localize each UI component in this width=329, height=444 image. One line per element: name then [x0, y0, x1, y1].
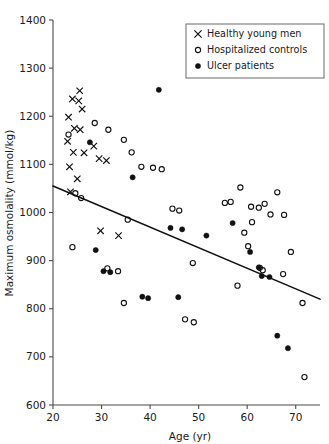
data-point — [150, 165, 155, 170]
data-point — [140, 294, 145, 299]
x-tick-label: 40 — [143, 411, 156, 423]
data-point — [256, 205, 261, 210]
data-point — [70, 245, 75, 250]
data-point — [81, 150, 87, 156]
x-tick-label: 50 — [192, 411, 205, 423]
data-point — [108, 270, 113, 275]
data-point — [79, 106, 85, 112]
osmolality-vs-age-chart: 60070080090010001100120013001400 2030405… — [0, 0, 329, 444]
data-point — [242, 230, 247, 235]
legend-marker-dot — [195, 63, 200, 68]
data-point — [222, 200, 227, 205]
data-point — [121, 137, 126, 142]
data-point — [93, 247, 98, 252]
data-point — [249, 220, 254, 225]
data-point — [230, 220, 235, 225]
data-point — [288, 249, 293, 254]
data-point — [87, 140, 92, 145]
y-tick-label: 800 — [26, 302, 46, 314]
data-point — [106, 127, 111, 132]
data-points-layer — [64, 87, 307, 380]
data-point — [235, 283, 240, 288]
series-healthy-young-men — [64, 88, 121, 239]
y-tick-label: 900 — [26, 254, 46, 266]
legend-label: Healthy young men — [207, 28, 301, 39]
x-axis: 203040506070 — [46, 405, 320, 423]
data-point — [180, 227, 185, 232]
data-point — [76, 98, 82, 104]
data-point — [268, 212, 273, 217]
y-axis: 60070080090010001100120013001400 — [19, 14, 53, 411]
y-tick-label: 1400 — [19, 14, 46, 26]
data-point — [191, 320, 196, 325]
data-point — [170, 206, 175, 211]
data-point — [66, 132, 71, 137]
chart-legend: Healthy young menHospitalized controlsUl… — [186, 24, 324, 78]
data-point — [204, 233, 209, 238]
x-tick-label: 60 — [240, 411, 253, 423]
data-point — [238, 185, 243, 190]
data-point — [262, 201, 267, 206]
data-point — [256, 265, 261, 270]
data-point — [103, 157, 109, 163]
y-tick-label: 700 — [26, 350, 46, 362]
data-point — [92, 120, 97, 125]
data-point — [121, 300, 126, 305]
data-point — [275, 190, 280, 195]
y-tick-label: 1000 — [19, 206, 46, 218]
y-tick-label: 1300 — [19, 62, 46, 74]
y-tick-label: 600 — [26, 399, 46, 411]
data-point — [177, 208, 182, 213]
data-point — [248, 204, 253, 209]
data-point — [66, 164, 72, 170]
series-hospitalized-controls — [66, 120, 307, 379]
data-point — [246, 244, 251, 249]
data-point — [302, 374, 307, 379]
data-point — [281, 212, 286, 217]
data-point — [71, 125, 77, 131]
data-point — [176, 295, 181, 300]
x-tick-label: 70 — [289, 411, 302, 423]
data-point — [139, 164, 144, 169]
data-point — [130, 175, 135, 180]
y-tick-label: 1200 — [19, 110, 46, 122]
data-point — [156, 87, 161, 92]
regression-trend-line — [53, 186, 320, 299]
legend-label: Hospitalized controls — [207, 44, 307, 55]
data-point — [77, 127, 83, 133]
legend-label: Ulcer patients — [207, 60, 274, 71]
data-point — [115, 232, 121, 238]
data-point — [190, 260, 195, 265]
data-point — [159, 167, 164, 172]
data-point — [146, 296, 151, 301]
data-point — [129, 150, 134, 155]
y-axis-label: Maximum osmolality (mmol/kg) — [3, 130, 15, 297]
data-point — [275, 333, 280, 338]
data-point — [96, 155, 102, 161]
data-point — [65, 114, 71, 120]
x-axis-label: Age (yr) — [169, 430, 211, 442]
data-point — [64, 138, 70, 144]
data-point — [168, 225, 173, 230]
data-point — [115, 269, 120, 274]
y-tick-label: 1100 — [19, 158, 46, 170]
data-point — [247, 249, 252, 254]
data-point — [70, 149, 76, 155]
x-tick-label: 20 — [46, 411, 59, 423]
data-point — [69, 96, 75, 102]
data-point — [97, 228, 103, 234]
data-point — [228, 199, 233, 204]
data-point — [281, 272, 286, 277]
data-point — [101, 269, 106, 274]
data-point — [74, 176, 80, 182]
data-point — [285, 346, 290, 351]
scatter-plot-figure: 60070080090010001100120013001400 2030405… — [0, 0, 329, 444]
data-point — [300, 300, 305, 305]
x-tick-label: 30 — [95, 411, 108, 423]
data-point — [77, 88, 83, 94]
data-point — [182, 317, 187, 322]
series-ulcer-patients — [87, 87, 290, 351]
